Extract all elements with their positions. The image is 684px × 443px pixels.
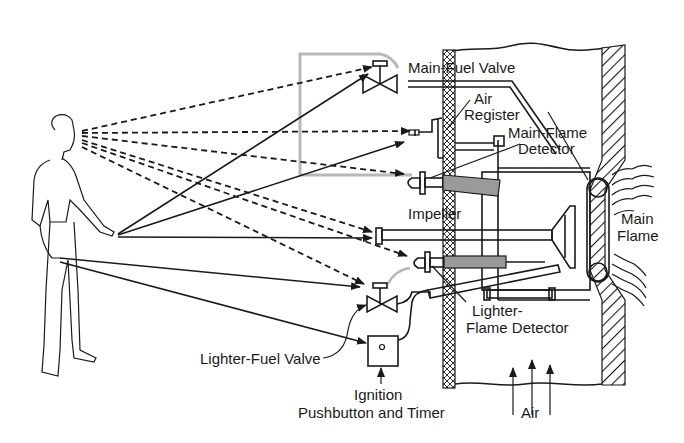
main-fuel-valve [363, 61, 397, 93]
furnace-wall-hatched [590, 45, 625, 385]
air-register-crank [415, 118, 444, 158]
windbox-bottom-edge [455, 383, 602, 385]
label-main-flame-line2: Flame [617, 227, 659, 244]
label-main-flame-detector-line2: Detector [518, 140, 575, 157]
label-ignition-line1: Ignition [354, 386, 402, 403]
diagram-canvas: Main-Fuel Valve Air Register Main-Flame … [0, 0, 684, 443]
label-lighter-flame-detector-line2: Flame Detector [466, 319, 569, 336]
reach-lines [60, 74, 404, 343]
label-air-register-line1: Air [474, 90, 492, 107]
operator-figure [32, 115, 114, 376]
label-air-register-line2: Register [464, 106, 520, 123]
label-main-fuel-valve: Main-Fuel Valve [408, 59, 515, 76]
label-air: Air [521, 404, 539, 421]
label-lighter-flame-detector-line1: Lighter- [472, 302, 523, 319]
lighter-flame-detector [414, 252, 545, 272]
lighter-fuel-valve [367, 283, 397, 312]
label-main-flame-detector-line1: Main-Flame [508, 124, 587, 141]
label-lighter-fuel-valve: Lighter-Fuel Valve [200, 350, 321, 367]
label-ignition-line2: Pushbutton and Timer [298, 404, 445, 421]
label-main-flame-line1: Main [621, 210, 654, 227]
label-impeller: Impeller [408, 205, 461, 222]
burner-diagram: Main-Fuel Valve Air Register Main-Flame … [0, 0, 684, 443]
furnace-top-edge [448, 43, 605, 52]
